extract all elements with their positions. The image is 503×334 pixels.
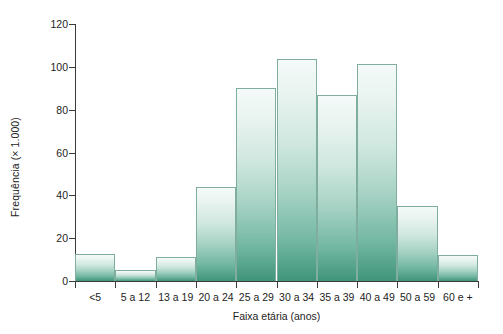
y-axis-tick-labels: 020406080100120: [34, 0, 68, 334]
histogram-bar: [75, 254, 115, 281]
x-axis-tick-label: 5 a 12: [121, 290, 150, 304]
x-axis-tick-label: 40 a 49: [360, 290, 395, 304]
plot-area: [75, 24, 478, 281]
x-axis-tick-mark: [156, 282, 157, 288]
histogram-bar: [196, 187, 236, 281]
y-axis-tick-label: 120: [38, 19, 68, 30]
x-axis-tick-marks: [75, 282, 479, 288]
x-axis-tick-mark: [317, 282, 318, 288]
histogram-bar: [277, 59, 317, 281]
x-axis-tick-label: <5: [89, 290, 101, 304]
histogram-chart: Frequência (× 1.000) 020406080100120 <55…: [0, 0, 503, 334]
x-axis-tick-label: 35 a 39: [319, 290, 354, 304]
x-axis-tick-mark: [438, 282, 439, 288]
x-axis-tick-label: 50 a 59: [400, 290, 435, 304]
y-axis-tick-label: 20: [38, 233, 68, 244]
x-axis-tick-mark: [478, 282, 479, 288]
histogram-bar: [438, 255, 478, 281]
histogram-bar: [156, 257, 196, 281]
x-axis-tick-mark: [357, 282, 358, 288]
x-axis-tick-mark: [277, 282, 278, 288]
y-axis-title: Frequência (× 1.000): [6, 0, 24, 334]
y-axis-tick-label: 100: [38, 62, 68, 73]
histogram-bar: [317, 95, 357, 281]
x-axis-tick-labels: <55 a 1213 a 1920 a 2425 a 2930 a 3435 a…: [75, 290, 478, 306]
y-axis-tick-label: 60: [38, 147, 68, 158]
bars-layer: [75, 24, 478, 281]
histogram-bar: [236, 88, 276, 281]
histogram-bar: [357, 64, 397, 281]
x-axis-tick-mark: [75, 282, 76, 288]
x-axis-tick-label: 60 e +: [443, 290, 473, 304]
x-axis-tick-label: 20 a 24: [199, 290, 234, 304]
x-axis-tick-label: 25 a 29: [239, 290, 274, 304]
x-axis-tick-mark: [115, 282, 116, 288]
histogram-bar: [115, 270, 155, 281]
y-axis-tick-label: 40: [38, 190, 68, 201]
y-axis-tick-label: 80: [38, 104, 68, 115]
y-axis-tick-label: 0: [38, 276, 68, 287]
x-axis-tick-mark: [196, 282, 197, 288]
x-axis-tick-label: 30 a 34: [279, 290, 314, 304]
x-axis-tick-mark: [397, 282, 398, 288]
x-axis-title: Faixa etária (anos): [75, 310, 478, 322]
histogram-bar: [397, 206, 437, 281]
x-axis-tick-label: 13 a 19: [158, 290, 193, 304]
x-axis-tick-mark: [236, 282, 237, 288]
